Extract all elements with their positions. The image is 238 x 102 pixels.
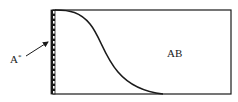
wall-label: A* [10, 54, 21, 65]
concentration-curve [55, 10, 163, 94]
hatched-wall [51, 10, 55, 94]
diagram-box [53, 10, 231, 94]
arrow-icon [26, 42, 48, 56]
diagram-canvas [0, 0, 238, 102]
region-label: AB [167, 48, 182, 59]
wall-label-base: A [10, 53, 18, 65]
wall-label-superscript: * [18, 53, 22, 61]
